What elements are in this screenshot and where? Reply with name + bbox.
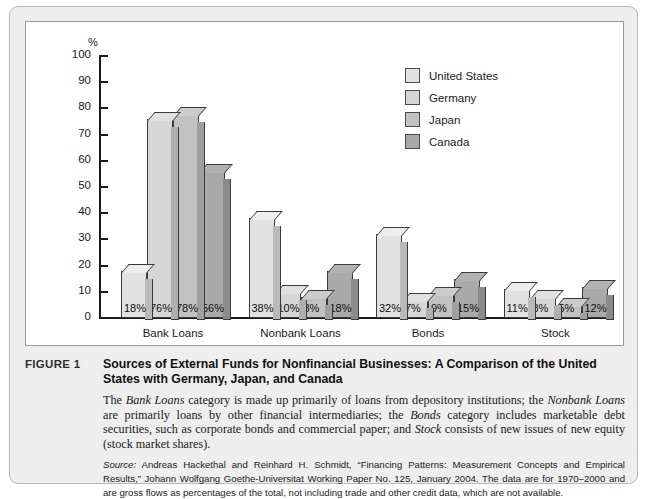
bar-value-label: 38% bbox=[252, 302, 274, 314]
bar: 32% bbox=[376, 234, 402, 318]
chart-panel: % 1009080706050403020100 18%76%78%56%38%… bbox=[25, 21, 624, 346]
caption-text: category is made up primarily of loans f… bbox=[184, 393, 547, 407]
legend-swatch bbox=[405, 68, 420, 83]
legend-label: Japan bbox=[429, 114, 460, 126]
bars-layer: 18%76%78%56%38%10%8%18%32%7%9%15%11%8%5%… bbox=[26, 22, 623, 345]
bar-side-face bbox=[452, 302, 460, 320]
caption-term: Stock bbox=[415, 422, 441, 436]
figure-title: Sources of External Funds for Nonfinanci… bbox=[103, 357, 625, 387]
bar-value-label: 12% bbox=[585, 302, 607, 314]
chart-legend: United StatesGermanyJapanCanada bbox=[405, 66, 498, 154]
bar-side-face bbox=[554, 305, 562, 320]
caption-source: Source: Andreas Hackethal and Reinhard H… bbox=[103, 458, 625, 499]
source-label: Source: bbox=[103, 459, 136, 470]
bar-value-label: 15% bbox=[457, 302, 479, 314]
legend-item: Canada bbox=[405, 132, 498, 151]
bar-side-face bbox=[528, 297, 536, 320]
bar-side-face bbox=[145, 279, 153, 320]
bar-side-face bbox=[197, 122, 205, 320]
bar-value-label: 78% bbox=[176, 302, 198, 314]
bar-value-label: 18% bbox=[124, 302, 146, 314]
legend-label: United States bbox=[429, 70, 498, 82]
figure-container: % 1009080706050403020100 18%76%78%56%38%… bbox=[9, 6, 638, 484]
caption-term: Bonds bbox=[410, 408, 440, 422]
bar-side-face bbox=[223, 179, 231, 320]
figure-caption: FIGURE 1 Sources of External Funds for N… bbox=[25, 357, 625, 499]
bar-top-face bbox=[582, 280, 616, 289]
bar-value-label: 32% bbox=[379, 302, 401, 314]
legend-label: Germany bbox=[429, 92, 476, 104]
bar-top-face bbox=[504, 282, 538, 291]
bar-side-face bbox=[580, 313, 588, 320]
bar-side-face bbox=[325, 305, 333, 320]
caption-term: Nonbank Loans bbox=[547, 393, 625, 407]
bar-chart: % 1009080706050403020100 18%76%78%56%38%… bbox=[26, 22, 623, 345]
bar-top-face bbox=[376, 227, 410, 236]
bar-side-face bbox=[400, 242, 408, 320]
category-label: Stock bbox=[474, 327, 638, 339]
legend-item: United States bbox=[405, 66, 498, 85]
bar-value-label: 76% bbox=[150, 302, 172, 314]
legend-label: Canada bbox=[429, 136, 469, 148]
bar-value-label: 10% bbox=[278, 302, 300, 314]
legend-item: Germany bbox=[405, 88, 498, 107]
caption-text: are primarily loans by other financial i… bbox=[103, 408, 410, 422]
bar: 18% bbox=[121, 271, 147, 318]
bar-value-label: 11% bbox=[507, 302, 528, 314]
legend-swatch bbox=[405, 90, 420, 105]
bar-side-face bbox=[478, 287, 486, 320]
source-text: Andreas Hackethal and Reinhard H. Schmid… bbox=[103, 459, 625, 497]
figure-number: FIGURE 1 bbox=[25, 357, 103, 370]
bar-side-face bbox=[171, 127, 179, 320]
caption-body: The Bank Loans category is made up prima… bbox=[103, 393, 625, 451]
bar-top-face bbox=[249, 211, 283, 220]
bar-value-label: 18% bbox=[330, 302, 352, 314]
legend-swatch bbox=[405, 134, 420, 149]
caption-text: The bbox=[103, 393, 126, 407]
bar-top-face bbox=[454, 272, 488, 281]
legend-item: Japan bbox=[405, 110, 498, 129]
caption-term: Bank Loans bbox=[126, 393, 185, 407]
bar: 38% bbox=[249, 218, 275, 318]
bar-top-face bbox=[327, 264, 361, 273]
bar: 11% bbox=[504, 289, 530, 318]
bar-value-label: 56% bbox=[202, 302, 224, 314]
bar-side-face bbox=[426, 308, 434, 320]
legend-swatch bbox=[405, 112, 420, 127]
